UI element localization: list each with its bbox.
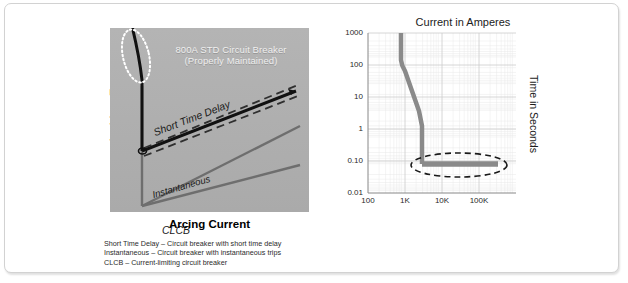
right-chart-x-tick-1k: 1K [385, 196, 425, 205]
curve-short-time-delay-riser [131, 28, 142, 151]
right-chart-y-tick-1: 1 [323, 124, 363, 133]
left-chart-x-axis-title: Arcing Current [110, 218, 309, 230]
right-chart-y-tick-10: 10 [323, 92, 363, 101]
right-chart: Current in Amperes [335, 16, 565, 231]
right-chart-x-tick-100k: 100K [459, 196, 499, 205]
left-chart-panel-title-line2: (Properly Maintained) [156, 55, 306, 66]
caption-line-short-time-delay: Short Time Delay – Circuit breaker with … [104, 239, 434, 248]
right-chart-y-tick-0-10: 0.10 [323, 156, 363, 165]
right-chart-y-tick-1000: 1000 [323, 28, 363, 37]
caption: Short Time Delay – Circuit breaker with … [104, 239, 434, 267]
right-chart-x-tick-10k: 10K [422, 196, 462, 205]
left-chart-plot-area: 800A STD Circuit Breaker (Properly Maint… [110, 28, 309, 212]
caption-line-instantaneous: Instantaneous – Circuit breaker with ins… [104, 248, 434, 257]
caption-line-clcb: CLCB – Current-limiting circuit breaker [104, 258, 434, 267]
right-chart-y-tick-100: 100 [323, 60, 363, 69]
left-chart-panel-title-line1: 800A STD Circuit Breaker [156, 44, 306, 55]
right-chart-x-tick-100: 100 [348, 196, 388, 205]
left-chart: Incident Energy [83, 16, 323, 236]
figure-card: Incident Energy [4, 3, 619, 273]
right-chart-y-axis-title: Time in Seconds [528, 59, 540, 169]
